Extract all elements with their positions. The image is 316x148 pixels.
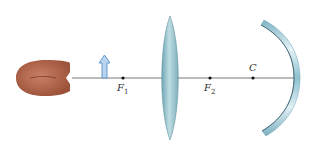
object-arrow-icon bbox=[99, 55, 110, 78]
label-c-base: C bbox=[249, 62, 257, 73]
label-f1-sub: 1 bbox=[124, 88, 128, 96]
optics-diagram bbox=[0, 0, 316, 148]
label-f2-base: F bbox=[204, 82, 211, 93]
label-f1: F1 bbox=[117, 82, 128, 96]
label-f2-sub: 2 bbox=[211, 88, 215, 96]
eye-icon bbox=[16, 60, 70, 96]
focal-point-f2 bbox=[208, 76, 211, 79]
label-c: C bbox=[249, 62, 257, 73]
center-of-curvature-c bbox=[251, 76, 254, 79]
converging-lens bbox=[162, 16, 179, 140]
label-f2: F2 bbox=[204, 82, 215, 96]
focal-point-f1 bbox=[121, 76, 124, 79]
label-f1-base: F bbox=[117, 82, 124, 93]
